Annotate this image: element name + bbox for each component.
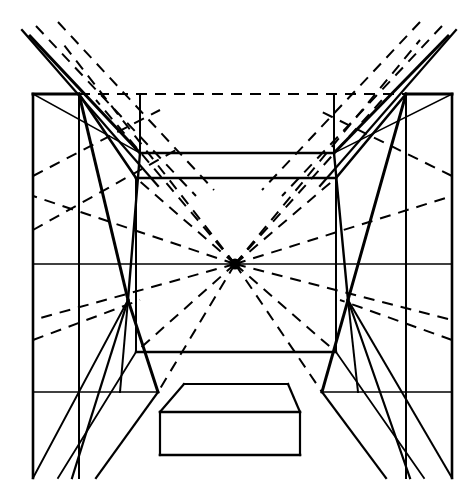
drawing-canvas (0, 0, 476, 498)
perspective-drawing (0, 0, 476, 498)
vanishing-point-group (230, 259, 241, 270)
vanishing-point-marker (230, 259, 241, 270)
canvas-background (0, 0, 476, 498)
